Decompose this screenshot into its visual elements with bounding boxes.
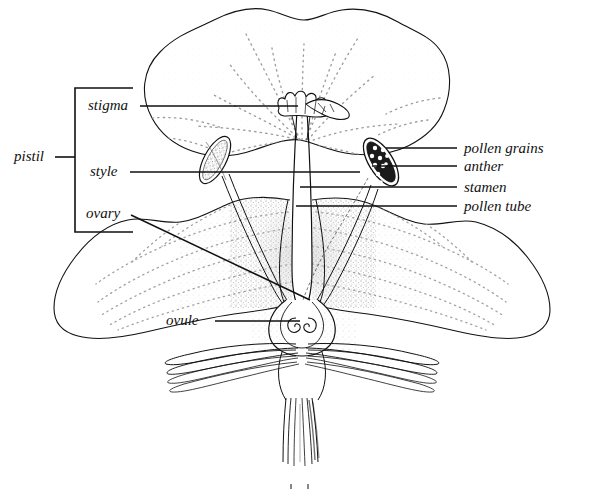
flower-anatomy-diagram: pistil stigma style ovary ovule pollen g… [0, 0, 608, 493]
label-stigma: stigma [88, 98, 128, 113]
upper-petal [144, 8, 450, 166]
label-pollen-grains: pollen grains [464, 141, 544, 156]
label-style: style [90, 164, 118, 179]
label-ovule: ovule [166, 313, 198, 328]
label-pistil: pistil [14, 149, 44, 164]
flower-stem [283, 398, 319, 489]
upper-petal-veins [150, 8, 450, 166]
flower-illustration [0, 0, 608, 493]
label-pollen-tube: pollen tube [464, 199, 531, 214]
label-anther: anther [464, 159, 503, 174]
label-ovary: ovary [86, 206, 120, 221]
label-stamen: stamen [464, 180, 507, 195]
